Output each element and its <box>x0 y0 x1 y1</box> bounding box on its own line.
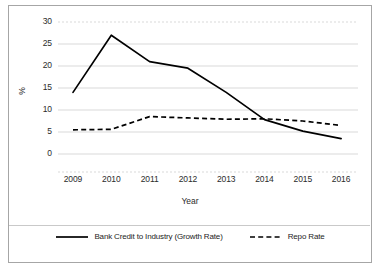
y-tick-25: 25 <box>30 39 52 48</box>
x-tick-2012: 2012 <box>168 174 208 184</box>
x-tick-2015: 2015 <box>283 174 323 184</box>
chart-legend: Bank Credit to Industry (Growth Rate) Re… <box>8 232 372 241</box>
y-axis-title: % <box>17 82 27 100</box>
x-tick-2016: 2016 <box>321 174 361 184</box>
x-tick-2010: 2010 <box>91 174 131 184</box>
legend-solid-line-icon <box>55 233 89 241</box>
y-tick-0: 0 <box>30 149 52 158</box>
y-tick-30: 30 <box>30 17 52 26</box>
x-tick-2011: 2011 <box>130 174 170 184</box>
chart-figure: 30 25 20 15 10 5 0 % 2009 2010 2011 <box>0 0 380 271</box>
y-tick-20: 20 <box>30 61 52 70</box>
x-tick-2014: 2014 <box>245 174 285 184</box>
legend-label-repo-rate: Repo Rate <box>288 232 325 241</box>
legend-divider <box>9 225 370 226</box>
legend-item-bank-credit[interactable]: Bank Credit to Industry (Growth Rate) <box>55 232 222 241</box>
y-tick-10: 10 <box>30 105 52 114</box>
legend-item-repo-rate[interactable]: Repo Rate <box>249 232 325 241</box>
x-tick-2013: 2013 <box>206 174 246 184</box>
x-tick-2009: 2009 <box>53 174 93 184</box>
y-tick-5: 5 <box>30 127 52 136</box>
y-axis-tick-labels: 30 25 20 15 10 5 0 <box>30 0 52 160</box>
legend-label-bank-credit: Bank Credit to Industry (Growth Rate) <box>94 232 222 241</box>
y-tick-15: 15 <box>30 83 52 92</box>
legend-dashed-line-icon <box>249 233 283 241</box>
x-axis-title: Year <box>0 196 380 206</box>
